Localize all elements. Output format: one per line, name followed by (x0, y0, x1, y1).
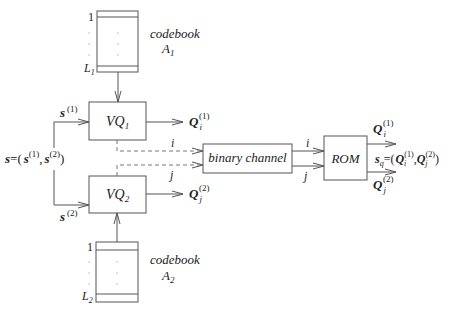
index-j-line (117, 165, 203, 176)
rom-block: ROM (324, 136, 367, 180)
diagram: 1 L1 codebook A1 VQ1 VQ2 1 L2 codebook A… (0, 0, 464, 315)
index-j-label: j (168, 168, 174, 182)
dot (116, 283, 118, 285)
index-i-line (117, 140, 203, 151)
branch1-label: s(1) (59, 104, 78, 120)
arrow-input-to-vq2 (54, 170, 89, 205)
sq-equation-label: sq=(Qi(1),Qj(2)) (374, 150, 439, 168)
vq2-block: VQ2 (89, 176, 146, 213)
input-vector-label: s=(s(1),s(2)) (4, 149, 64, 166)
dot (88, 283, 90, 285)
dot (88, 272, 90, 274)
codebook-a1: 1 L1 codebook A1 (83, 10, 200, 77)
codebook-a2-name: A2 (161, 268, 175, 285)
dot (116, 261, 118, 263)
dot (88, 32, 90, 34)
dot (117, 54, 119, 56)
codebook-a1-name: A1 (161, 41, 174, 58)
codebook-a1-first-index: 1 (88, 10, 94, 24)
vq2-output-label: Qj(2) (189, 183, 209, 204)
arrow-input-to-vq1 (54, 122, 89, 148)
dot (88, 261, 90, 263)
dot (117, 43, 119, 45)
codebook-a2-first-index: 1 (87, 240, 93, 254)
dot (116, 272, 118, 274)
codebook-a1-label: codebook (150, 26, 200, 41)
codebook-a2: 1 L2 codebook A2 (81, 240, 200, 305)
rom-label: ROM (330, 151, 360, 166)
dot (88, 43, 90, 45)
channel-i-label: i (306, 136, 309, 150)
binary-channel-label: binary channel (208, 150, 287, 165)
rom-output2-label: Qj(2) (373, 174, 393, 195)
vq1-block: VQ1 (89, 102, 146, 140)
vq1-output-label: Qi(1) (189, 111, 209, 132)
index-i-label: i (171, 136, 174, 150)
codebook-a1-last-index: L1 (83, 61, 95, 77)
codebook-a1-box (97, 11, 138, 72)
codebook-a2-last-index: L2 (81, 289, 93, 305)
rom-output1-label: Qi(1) (373, 118, 393, 139)
dot (88, 54, 90, 56)
channel-j-label: j (302, 169, 308, 183)
codebook-a2-label: codebook (150, 252, 200, 267)
dot (117, 32, 119, 34)
codebook-a2-box (96, 242, 138, 302)
binary-channel-block: binary channel (203, 144, 292, 173)
branch2-label: s(2) (59, 208, 78, 224)
